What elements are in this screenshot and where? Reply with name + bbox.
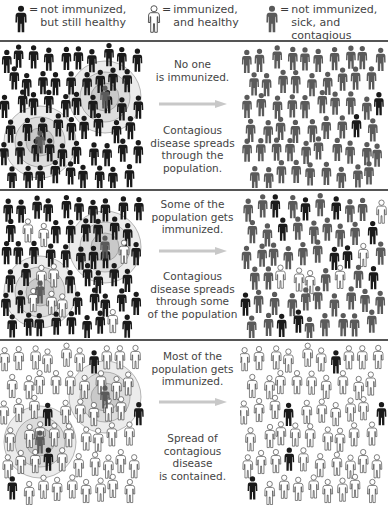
legend-label: not immunized, sick, and contagious <box>291 3 388 42</box>
caption-outcome: Spread of contagious disease is containe… <box>145 432 240 482</box>
panel-some-immunized: Some of the population gets immunized.Co… <box>0 192 388 338</box>
legend-item-sick: =not immunized, sick, and contagious <box>265 3 388 42</box>
legend: =not immunized, but still healthy=immuni… <box>0 0 388 40</box>
population-before <box>0 42 145 188</box>
legend-equals: = <box>280 3 289 16</box>
legend-label: immunized, and healthy <box>173 3 239 29</box>
caption: No one is immunized.Contagious disease s… <box>145 42 240 188</box>
legend-item-white: =immunized, and healthy <box>147 3 239 37</box>
population-before-figures <box>0 42 145 188</box>
panel-none-immunized: No one is immunized.Contagious disease s… <box>0 42 388 188</box>
population-before <box>0 192 145 338</box>
caption: Some of the population gets immunized.Co… <box>145 192 240 338</box>
arrow-right-icon <box>159 247 227 255</box>
caption-outcome: Contagious disease spreads through the p… <box>145 124 240 174</box>
population-after <box>240 42 388 188</box>
population-after-figures <box>240 42 388 188</box>
legend-label: not immunized, but still healthy <box>40 3 126 29</box>
population-before-figures <box>0 342 145 505</box>
legend-equals: = <box>29 3 38 16</box>
population-after-figures <box>240 192 388 338</box>
panel-most-immunized: Most of the population gets immunized.Sp… <box>0 342 388 505</box>
immunized-person-icon <box>147 3 161 37</box>
caption-condition: Some of the population gets immunized. <box>145 198 240 236</box>
population-after <box>240 342 388 505</box>
healthy-person-icon <box>14 3 28 37</box>
caption-condition: Most of the population gets immunized. <box>145 350 240 388</box>
divider-1 <box>0 189 388 191</box>
divider-2 <box>0 339 388 341</box>
legend-item-dark: =not immunized, but still healthy <box>14 3 126 37</box>
sick-person-icon <box>265 3 279 37</box>
caption-condition: No one is immunized. <box>145 58 240 83</box>
population-before <box>0 342 145 505</box>
caption: Most of the population gets immunized.Sp… <box>145 342 240 505</box>
legend-equals: = <box>162 3 171 16</box>
population-before-figures <box>0 192 145 338</box>
arrow-right-icon <box>159 100 227 108</box>
population-after <box>240 192 388 338</box>
arrow-right-icon <box>159 398 227 406</box>
population-after-figures <box>240 342 388 505</box>
caption-outcome: Contagious disease spreads through some … <box>145 270 240 320</box>
